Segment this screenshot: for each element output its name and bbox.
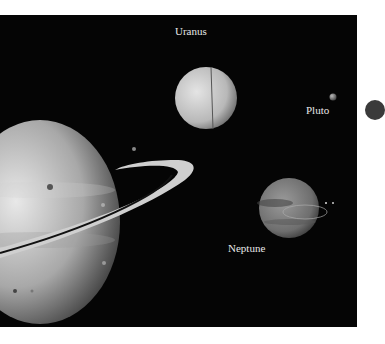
neptune-label: Neptune (228, 242, 265, 254)
pluto-label: Pluto (306, 104, 329, 116)
uranus-label: Uranus (175, 25, 207, 37)
space-illustration: Uranus Pluto Neptune (0, 15, 357, 327)
edge-marker (365, 100, 385, 120)
pluto (330, 94, 337, 101)
planets-artwork (0, 15, 357, 327)
uranus (175, 67, 237, 129)
neptune (257, 178, 334, 238)
saturn (0, 120, 194, 324)
